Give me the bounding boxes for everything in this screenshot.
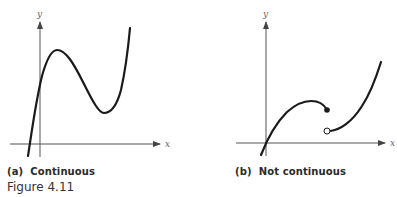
panel-a-graph: x y — [10, 9, 170, 157]
panel-b-open-endpoint — [324, 128, 330, 134]
panel-b-right-curve — [330, 62, 381, 131]
panel-a-curve — [28, 28, 130, 156]
panel-b-caption: (b) Not continuous — [235, 166, 346, 177]
panel-b-graph: x y — [236, 9, 395, 156]
panel-b-filled-endpoint — [324, 107, 330, 113]
panel-b-x-label: x — [390, 138, 395, 148]
figure-label: Figure 4.11 — [7, 180, 74, 194]
panel-b-y-label: y — [262, 9, 269, 19]
panel-a-caption: (a) Continuous — [7, 166, 95, 177]
panel-a-y-label: y — [36, 9, 43, 19]
panel-a-x-label: x — [165, 139, 170, 149]
panel-b-left-curve — [261, 101, 327, 155]
